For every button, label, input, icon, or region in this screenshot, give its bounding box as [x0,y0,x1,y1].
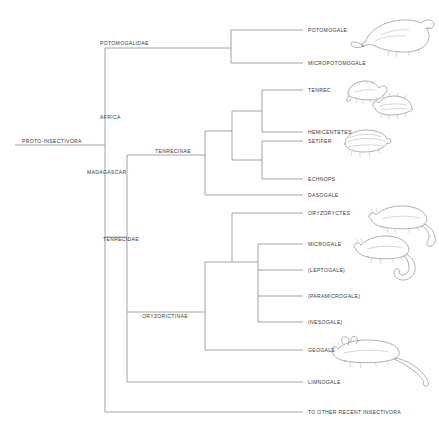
tree-branches [15,30,303,412]
tip-label-leptogale: (LEPTOGALE) [308,267,345,273]
geogale-illustration [331,336,428,386]
tip-label-setifer: SETIFER [308,138,332,144]
tip-labels: POTOMOGALE MICROPOTOMOGALE TENREC HEMICE… [308,27,401,415]
hemicentetes-illustration [373,93,412,119]
tip-label-microgale: MICROGALE [308,241,342,247]
tip-label-oryzoryctes: ORYZORYCTES [308,210,350,216]
oryzoryctes-illustration [369,206,435,246]
node-label-oryzorictinae: ORYZORICTINAE [142,313,188,319]
node-label-tenrecinae: TENRECINAE [155,148,191,154]
internal-node-labels: PROTO-INSECTIVORA POTOMOGALIDAE AFRICA M… [22,40,191,319]
tip-label-other-insectivora: TO OTHER RECENT INSECTIVORA [308,409,401,415]
microgale-illustration [354,236,415,280]
setifer-illustration [345,130,391,157]
tip-label-micropotomogale: MICROPOTOMOGALE [308,60,366,66]
node-label-africa: AFRICA [100,114,121,120]
tip-label-hemicentetes: HEMICENTETES [308,129,352,135]
phylogenetic-tree-figure: PROTO-INSECTIVORA POTOMOGALIDAE AFRICA M… [0,0,439,436]
node-label-proto-insectivora: PROTO-INSECTIVORA [22,138,82,144]
node-label-tenrecidae: TENRECIDAE [103,236,139,242]
tip-label-echnops: ECHNOPS [308,176,336,182]
potomogale-illustration [351,20,434,57]
tip-label-nesogale: (NESOGALE) [308,319,343,325]
tip-label-limnogale: LIMNOGALE [308,379,341,385]
tip-label-geogale: GEOGALE [308,347,335,353]
node-label-potomogalidae: POTOMOGALIDAE [100,40,149,46]
tip-label-dasogale: DASOGALE [308,192,339,198]
tip-label-paramicrogale: (PARAMICROGALE) [308,293,360,299]
tip-label-potomogale: POTOMOGALE [308,27,348,33]
tip-label-tenrec: TENREC [308,87,331,93]
node-label-madagascar: MADAGASCAR [87,169,126,175]
